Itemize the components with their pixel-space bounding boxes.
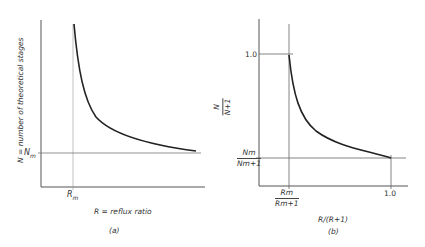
panel-a-curve bbox=[74, 24, 196, 151]
panel-b-y-tick-1: 1.0 bbox=[245, 51, 257, 59]
panel-b-y-label: N N+1 bbox=[213, 99, 231, 116]
panel-b-x-tick-rm: Rm Rm+1 bbox=[275, 189, 299, 207]
panel-b-y-tick-nm: Nm Nm+1 bbox=[237, 149, 261, 167]
y-label-denominator: N+1 bbox=[224, 99, 232, 116]
nm-subscript: m bbox=[30, 152, 36, 159]
panel-a-plot bbox=[38, 20, 205, 190]
rm-denominator: Rm+1 bbox=[275, 200, 299, 208]
panel-a-y-label: N = number of theoretical stages bbox=[16, 38, 25, 163]
rm-subscript: m bbox=[73, 194, 79, 201]
panel-a-x-tick-rm: Rm bbox=[67, 191, 78, 201]
nm-numerator: Nm bbox=[243, 149, 256, 157]
nm-denominator: Nm+1 bbox=[237, 160, 261, 168]
panel-a-x-label: R = reflux ratio bbox=[94, 208, 152, 216]
y-label-numerator: N bbox=[213, 104, 221, 110]
panel-a-y-tick-nm: Nm bbox=[24, 149, 36, 159]
panel-b-plot bbox=[256, 19, 408, 189]
rm-numerator: Rm bbox=[281, 189, 294, 197]
panel-a-caption: (a) bbox=[109, 227, 119, 235]
panel-b-caption: (b) bbox=[328, 228, 339, 236]
panel-b-curve bbox=[289, 55, 391, 158]
diagram-canvas bbox=[0, 0, 425, 247]
panel-b-x-label: R/(R+1) bbox=[318, 216, 348, 224]
panel-b-x-tick-1: 1.0 bbox=[384, 190, 396, 198]
